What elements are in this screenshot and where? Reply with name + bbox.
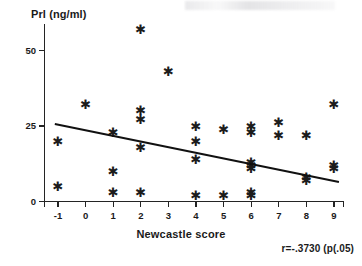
- x-tick-label: 9: [323, 210, 345, 221]
- x-axis-title: Newcastle score: [0, 228, 362, 240]
- x-tick-label: 3: [157, 210, 179, 221]
- x-tick-label: 1: [102, 210, 124, 221]
- x-tick-mark: [57, 202, 58, 207]
- y-tick-label: 25: [10, 120, 36, 131]
- y-tick-label: 0: [10, 196, 36, 207]
- x-tick-mark: [140, 202, 141, 207]
- data-point-marker: ✱: [163, 66, 174, 77]
- x-tick-label: -1: [47, 210, 69, 221]
- data-point-marker: ✱: [273, 117, 284, 128]
- data-point-marker: ✱: [191, 136, 202, 147]
- data-point-marker: ✱: [80, 99, 91, 110]
- scatter-plot-figure: Prl (ng/ml) 02550 -10123456789 ✱✱✱✱✱✱✱✱✱…: [0, 0, 362, 266]
- data-point-marker: ✱: [191, 121, 202, 132]
- x-tick-mark: [333, 202, 334, 207]
- data-point-marker: ✱: [246, 127, 257, 138]
- data-point-marker: ✱: [218, 124, 229, 135]
- data-point-marker: ✱: [53, 181, 64, 192]
- data-point-marker: ✱: [218, 190, 229, 201]
- data-point-marker: ✱: [108, 187, 119, 198]
- x-axis-end-tick: [44, 202, 45, 207]
- x-tick-mark: [85, 202, 86, 207]
- data-point-marker: ✱: [246, 190, 257, 201]
- x-tick-label: 5: [213, 210, 235, 221]
- y-tick-label: 50: [10, 45, 36, 56]
- data-point-marker: ✱: [301, 130, 312, 141]
- data-point-marker: ✱: [273, 130, 284, 141]
- data-point-marker: ✱: [135, 187, 146, 198]
- x-tick-label: 4: [185, 210, 207, 221]
- plot-area: 02550 -10123456789 ✱✱✱✱✱✱✱✱✱✱✱✱✱✱✱✱✱✱✱✱✱…: [0, 0, 362, 266]
- data-point-marker: ✱: [108, 166, 119, 177]
- x-tick-mark: [168, 202, 169, 207]
- x-tick-mark: [278, 202, 279, 207]
- x-tick-label: 6: [240, 210, 262, 221]
- x-tick-label: 8: [295, 210, 317, 221]
- data-point-marker: ✱: [329, 163, 340, 174]
- x-tick-label: 7: [268, 210, 290, 221]
- data-point-marker: ✱: [135, 24, 146, 35]
- x-tick-label: 0: [75, 210, 97, 221]
- data-point-marker: ✱: [53, 136, 64, 147]
- data-point-marker: ✱: [191, 190, 202, 201]
- data-point-marker: ✱: [329, 99, 340, 110]
- correlation-annotation: r=-.3730 (p(.05): [282, 243, 354, 254]
- x-tick-label: 2: [130, 210, 152, 221]
- data-point-marker: ✱: [135, 114, 146, 125]
- x-tick-mark: [306, 202, 307, 207]
- y-tick-mark: [39, 50, 45, 51]
- data-point-marker: ✱: [191, 154, 202, 165]
- x-axis-end-tick: [343, 202, 344, 207]
- x-tick-mark: [113, 202, 114, 207]
- y-tick-mark: [39, 125, 45, 126]
